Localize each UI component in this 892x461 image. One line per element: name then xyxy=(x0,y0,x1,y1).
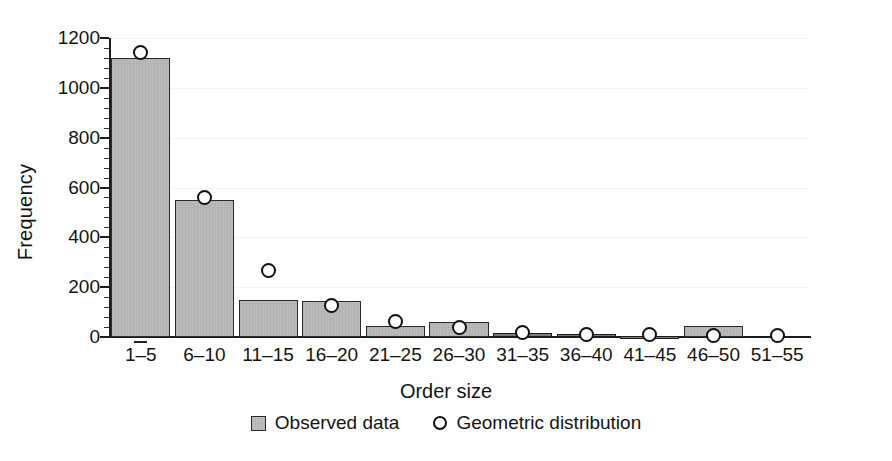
x-tick-label: 41–45 xyxy=(618,344,682,366)
y-tick-minor xyxy=(104,58,109,59)
y-tick-label: 400 xyxy=(48,227,100,246)
y-tick-minor xyxy=(104,227,109,228)
legend-label-geometric-distribution: Geometric distribution xyxy=(456,412,641,434)
y-tick-minor xyxy=(104,108,109,109)
y-tick-minor xyxy=(104,48,109,49)
x-tick-label: 6–10 xyxy=(173,344,237,366)
data-point-marker xyxy=(452,320,467,335)
data-point-marker xyxy=(515,325,530,340)
x-tick-label: 36–40 xyxy=(554,344,618,366)
data-point-marker xyxy=(770,328,785,343)
y-tick-minor xyxy=(104,277,109,278)
y-tick-minor xyxy=(104,257,109,258)
y-tick-label: 200 xyxy=(48,277,100,296)
y-tick-minor xyxy=(104,197,109,198)
x-axis-title-text: Order size xyxy=(400,380,492,402)
x-axis-title: Order size xyxy=(0,380,892,403)
y-tick-minor xyxy=(104,148,109,149)
data-point-marker xyxy=(197,190,212,205)
data-point-marker xyxy=(579,327,594,342)
y-tick-minor xyxy=(104,307,109,308)
data-point-marker xyxy=(261,263,276,278)
gridline xyxy=(109,188,809,189)
gridline xyxy=(109,88,809,89)
y-tick-minor xyxy=(104,247,109,248)
y-tick-minor xyxy=(104,267,109,268)
y-tick-major xyxy=(100,286,109,288)
y-tick-minor xyxy=(104,178,109,179)
x-tick-label: 21–25 xyxy=(364,344,428,366)
y-tick-minor xyxy=(104,118,109,119)
y-tick-minor xyxy=(104,297,109,298)
y-tick-major xyxy=(100,236,109,238)
x-tick-label: 11–15 xyxy=(236,344,300,366)
y-tick-minor xyxy=(104,158,109,159)
data-point-marker xyxy=(706,328,721,343)
bar xyxy=(175,200,234,337)
y-tick-minor xyxy=(104,168,109,169)
y-tick-minor xyxy=(104,128,109,129)
x-tick-label: 16–20 xyxy=(300,344,364,366)
x-tick-label: 1–5 xyxy=(109,344,173,366)
y-tick-label: 0 xyxy=(48,327,100,346)
y-tick-label: 600 xyxy=(48,178,100,197)
data-point-marker xyxy=(324,298,339,313)
y-tick-minor xyxy=(104,78,109,79)
y-axis-title: Frequency xyxy=(14,112,37,312)
gridline xyxy=(109,138,809,139)
y-tick-major xyxy=(100,137,109,139)
legend-label-observed-data: Observed data xyxy=(275,412,400,434)
x-tick-label: 51–55 xyxy=(745,344,809,366)
y-tick-minor xyxy=(104,317,109,318)
x-tick-label: 26–30 xyxy=(427,344,491,366)
first-category-dash-mark xyxy=(134,341,147,343)
chart-figure: Frequency 020040060080010001200 1–56–101… xyxy=(0,0,892,461)
legend-square-swatch-icon xyxy=(251,416,266,431)
x-tick-label: 46–50 xyxy=(682,344,746,366)
y-axis-title-text: Frequency xyxy=(14,112,37,312)
chart-legend: Observed data Geometric distribution xyxy=(0,412,892,434)
bar xyxy=(239,300,298,337)
y-tick-minor xyxy=(104,68,109,69)
y-tick-label: 1000 xyxy=(48,78,100,97)
y-tick-major xyxy=(100,187,109,189)
data-point-marker xyxy=(642,327,657,342)
y-tick-minor xyxy=(104,327,109,328)
y-tick-major xyxy=(100,336,109,338)
y-tick-major xyxy=(100,37,109,39)
legend-open-circle-icon xyxy=(433,416,447,430)
y-tick-major xyxy=(100,87,109,89)
legend-item-geometric-distribution: Geometric distribution xyxy=(433,412,641,434)
y-tick-minor xyxy=(104,98,109,99)
y-tick-label: 1200 xyxy=(48,28,100,47)
y-tick-minor xyxy=(104,207,109,208)
x-tick-label: 31–35 xyxy=(491,344,555,366)
y-tick-minor xyxy=(104,217,109,218)
gridline xyxy=(109,38,809,39)
legend-item-observed-data: Observed data xyxy=(251,412,400,434)
bar xyxy=(111,58,170,337)
data-point-marker xyxy=(388,314,403,329)
y-tick-label: 800 xyxy=(48,128,100,147)
